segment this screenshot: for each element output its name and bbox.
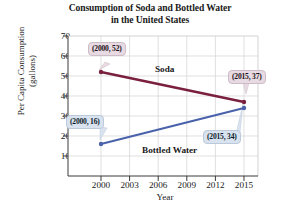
series-label-soda: Soda [155,64,174,74]
callout-bottled-water-2000: (2000, 16) [66,115,104,129]
plot-background [68,36,258,176]
data-point-soda-2000 [99,70,103,74]
callout-soda-2015: (2015, 37) [228,70,266,84]
series-label-bottled-water: Bottled Water [142,145,197,155]
callout-bottled-water-2015: (2015, 34) [203,130,241,144]
data-point-bottled-water-2015 [242,106,246,110]
chart-plot-svg [0,0,284,211]
callout-soda-2000: (2000, 52) [88,42,126,56]
y-axis-ticks [63,36,68,156]
x-axis-ticks [101,176,244,181]
data-point-soda-2015 [242,100,246,104]
chart-figure: Consumption of Soda and Bottled Water in… [0,0,284,211]
data-point-bottled-water-2000 [99,142,103,146]
